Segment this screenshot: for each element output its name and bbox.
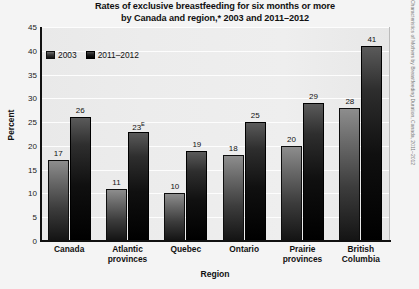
legend-item-2003[interactable]: 2003 bbox=[46, 50, 77, 60]
bar-value-label: 28 bbox=[345, 97, 354, 106]
chart-title-line-2: by Canada and region,* 2003 and 2011–201… bbox=[40, 13, 390, 25]
bar-value-label: 19 bbox=[192, 140, 201, 149]
legend-swatch-2003-icon bbox=[46, 51, 55, 59]
bar-value-label: 11 bbox=[112, 178, 120, 187]
legend-label-2011-2012: 2011–2012 bbox=[98, 50, 139, 60]
x-tick-label-atlantic-provinces: Atlanticprovinces bbox=[98, 244, 156, 264]
bar-value-label: 25 bbox=[251, 111, 260, 120]
bar-value-label: 29 bbox=[309, 92, 318, 101]
y-tick-label: 15 bbox=[3, 165, 37, 174]
bar-value-label: 26 bbox=[76, 106, 85, 115]
y-axis-line bbox=[40, 27, 42, 242]
bar-prairie-provinces-2011-2012[interactable] bbox=[303, 103, 324, 241]
x-tick-label-british-columbia: BritishColumbia bbox=[332, 244, 390, 264]
chart-figure: Rates of exclusive breastfeeding for six… bbox=[0, 0, 419, 289]
source-note: Characteristics of Mothers by Breastfeed… bbox=[406, 0, 418, 289]
bar-value-label: 18 bbox=[229, 144, 238, 153]
x-tick-label-ontario: Ontario bbox=[215, 244, 273, 254]
bar-quebec-2003[interactable] bbox=[164, 193, 185, 241]
bar-value-label: 10 bbox=[170, 182, 179, 191]
bar-value-label: 41 bbox=[367, 35, 376, 44]
x-axis-label: Region bbox=[40, 269, 390, 279]
bar-ontario-2003[interactable] bbox=[223, 155, 244, 241]
gridline bbox=[40, 98, 389, 99]
gridline bbox=[40, 146, 389, 147]
bar-canada-2011-2012[interactable] bbox=[70, 117, 91, 241]
bar-value-label: 17 bbox=[54, 149, 63, 158]
x-tick-label-quebec: Quebec bbox=[157, 244, 215, 254]
chart-title: Rates of exclusive breastfeeding for six… bbox=[40, 1, 390, 24]
bar-ontario-2011-2012[interactable] bbox=[245, 122, 266, 241]
bar-canada-2003[interactable] bbox=[48, 160, 69, 241]
y-axis-label: Percent bbox=[6, 95, 16, 155]
gridline bbox=[40, 217, 389, 218]
bar-atlantic-provinces-2011-2012[interactable] bbox=[128, 132, 149, 241]
gridline bbox=[40, 122, 389, 123]
x-axis-line bbox=[40, 240, 391, 242]
gridline bbox=[40, 193, 389, 194]
gridline bbox=[40, 75, 389, 76]
bar-value-label: 23E bbox=[132, 121, 145, 132]
x-tick-label-canada: Canada bbox=[40, 244, 98, 254]
y-tick-label: 0 bbox=[3, 237, 37, 246]
bar-british-columbia-2003[interactable] bbox=[339, 108, 360, 241]
x-tick-label-prairie-provinces: Prairieprovinces bbox=[273, 244, 331, 264]
chart-legend: 2003 2011–2012 bbox=[46, 50, 139, 60]
y-tick-label: 5 bbox=[3, 213, 37, 222]
bar-prairie-provinces-2003[interactable] bbox=[281, 146, 302, 241]
chart-title-line-1: Rates of exclusive breastfeeding for six… bbox=[40, 1, 390, 13]
gridline bbox=[40, 170, 389, 171]
bar-value-label: 20 bbox=[287, 135, 296, 144]
legend-label-2003: 2003 bbox=[58, 50, 77, 60]
gridline bbox=[40, 27, 389, 28]
legend-swatch-2011-2012-icon bbox=[86, 51, 95, 59]
legend-item-2011-2012[interactable]: 2011–2012 bbox=[86, 50, 139, 60]
bar-quebec-2011-2012[interactable] bbox=[186, 151, 207, 241]
bar-atlantic-provinces-2003[interactable] bbox=[106, 189, 127, 241]
y-tick-label: 35 bbox=[3, 70, 37, 79]
y-tick-label: 40 bbox=[3, 46, 37, 55]
y-tick-label: 45 bbox=[3, 23, 37, 32]
y-tick-label: 10 bbox=[3, 189, 37, 198]
bar-british-columbia-2011-2012[interactable] bbox=[361, 46, 382, 241]
